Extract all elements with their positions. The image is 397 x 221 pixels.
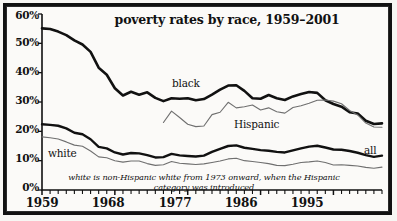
series-label-hispanic: Hispanic [234, 118, 279, 130]
y-axis-tick-label: 20% [5, 123, 39, 135]
chart-image: poverty rates by race, 1959–2001 60% 50%… [0, 0, 397, 221]
chart-series-lines [42, 28, 382, 168]
x-axis-tick-label: 1959 [12, 196, 72, 210]
chart-annotation-footnote: white is non-Hispanic white from 1973 on… [54, 172, 354, 192]
x-axis-tick-label: 1986 [211, 196, 271, 210]
x-axis-tick-label: 1977 [145, 196, 205, 210]
y-axis-tick-label: 10% [5, 152, 39, 164]
y-axis-tick-label: 0% [5, 181, 39, 193]
series-label-all: all [364, 144, 376, 156]
y-axis-tick-label: 60% [5, 9, 39, 21]
series-label-white: white [48, 147, 77, 159]
x-axis-tick-label: 1995 [277, 196, 337, 210]
y-axis-tick-label: 30% [5, 94, 39, 106]
y-axis-tick-label: 40% [5, 65, 39, 77]
chart-axes [38, 14, 382, 195]
x-axis-tick-label: 1968 [78, 196, 138, 210]
y-axis-tick-label: 50% [5, 36, 39, 48]
series-label-black: black [172, 77, 200, 89]
